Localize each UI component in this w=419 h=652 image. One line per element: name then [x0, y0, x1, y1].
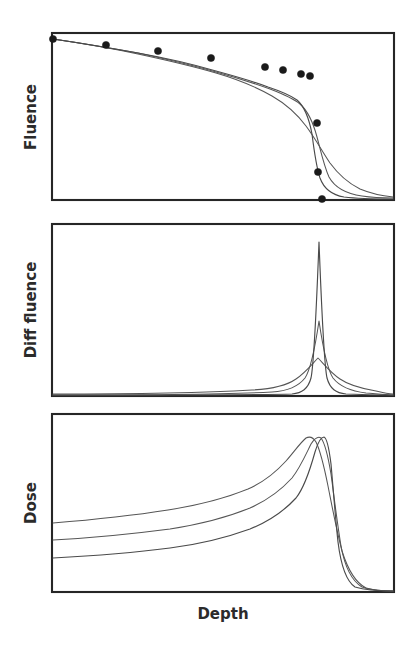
data-point	[297, 70, 304, 77]
panel-diff-fluence: Diff fluence	[22, 224, 394, 396]
data-point	[318, 195, 325, 202]
x-axis-label-depth: Depth	[197, 605, 248, 623]
data-point	[154, 47, 161, 54]
data-point	[102, 41, 109, 48]
panel-frame-diff-fluence	[52, 224, 394, 396]
data-point	[313, 119, 320, 126]
data-point	[261, 63, 268, 70]
panel-fluence: Fluence	[22, 33, 394, 203]
data-point	[49, 35, 56, 42]
data-point	[306, 72, 313, 79]
y-axis-label-fluence: Fluence	[22, 84, 40, 150]
figure-container: Fluence	[0, 0, 419, 652]
panel-frame-fluence	[52, 33, 394, 200]
data-point	[279, 66, 286, 73]
y-axis-label-diff-fluence: Diff fluence	[22, 262, 40, 359]
data-point	[207, 54, 214, 61]
stacked-panel-figure: Fluence	[0, 0, 419, 652]
panel-dose: Dose Depth	[22, 414, 394, 623]
y-axis-label-dose: Dose	[22, 482, 40, 524]
data-point	[314, 168, 321, 175]
